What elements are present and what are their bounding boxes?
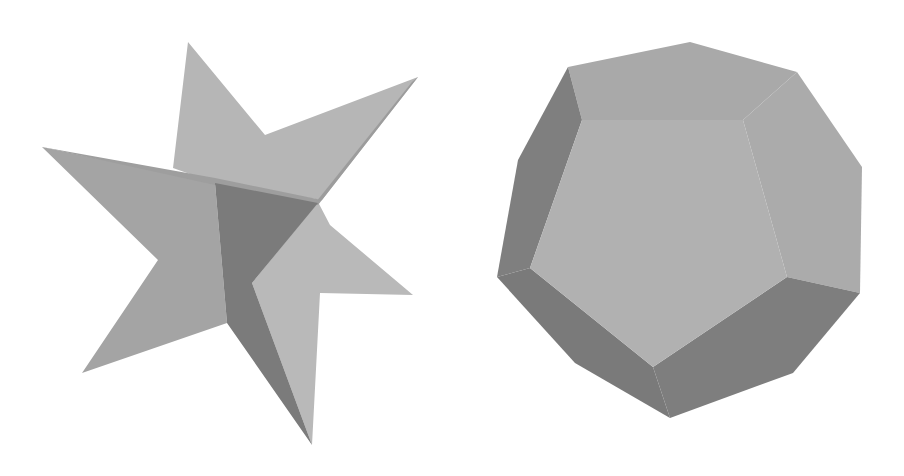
star-polyhedron	[42, 42, 418, 445]
figure-canvas	[0, 0, 904, 476]
polyhedra-illustration	[0, 0, 904, 476]
dodecahedron	[497, 42, 862, 418]
